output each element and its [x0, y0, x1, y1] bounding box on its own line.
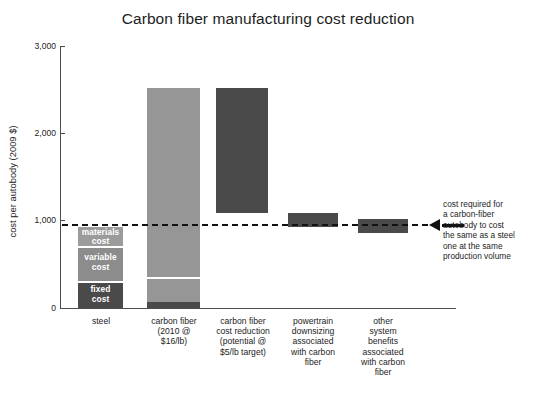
cat-other-line1: other [348, 316, 418, 326]
y-axis-tick-3000 [60, 46, 65, 47]
y-axis-tick-0 [60, 308, 65, 309]
annotation-line-1: cost required for [443, 199, 533, 209]
x-axis-label-carbon-fiber-2010: carbon fiber (2010 @ $16/lb) [138, 316, 210, 347]
cat-other-line2: system [348, 326, 418, 336]
cat-cf2010-line3: $16/lb) [138, 336, 210, 346]
cat-other-line6: fiber [348, 367, 418, 377]
y-axis-label-3000: 3,000 [0, 41, 56, 51]
cat-costred-line2: cost reduction [205, 326, 281, 336]
annotation-line-4: the same as a steel [443, 230, 533, 240]
y-axis-label-0: 0 [0, 303, 56, 313]
segment-label-fixed: fixedcost [90, 284, 110, 304]
reference-line-target-cost [62, 224, 428, 226]
annotation-arrow-head-icon [429, 219, 440, 231]
bar-cf2010-segment-base [147, 302, 200, 308]
cat-powertrain-line2: downsizing [278, 326, 348, 336]
x-axis-label-other-system-benefits: other system benefits associated with ca… [348, 316, 418, 377]
cat-other-line4: associated [348, 347, 418, 357]
bar-carbon-fiber-2010 [147, 88, 200, 308]
bar-steel-label-materials: materialscost [78, 228, 123, 247]
cat-other-line5: with carbon [348, 357, 418, 367]
bar-steel-label-fixed: fixedcost [78, 285, 123, 304]
chart-title: Carbon fiber manufacturing cost reductio… [0, 10, 536, 28]
bar-cf2010-segment-mid [147, 279, 200, 302]
bar-other-system-benefits [358, 219, 408, 233]
cat-costred-line1: carbon fiber [205, 316, 281, 326]
bar-cf2010-segment-upper [147, 88, 200, 277]
annotation-line-6: production volume [443, 251, 533, 261]
x-axis-label-powertrain-downsizing: powertrain downsizing associated with ca… [278, 316, 348, 367]
cat-other-line3: benefits [348, 336, 418, 346]
bar-carbon-fiber-cost-reduction [216, 88, 268, 213]
bar-steel-label-variable: variablecost [78, 253, 123, 272]
x-axis-label-steel: steel [70, 316, 132, 326]
annotation-line-3: autobody to cost [443, 220, 533, 230]
y-axis-tick-2000 [60, 133, 65, 134]
y-axis-tick-1000 [60, 220, 65, 221]
cat-powertrain-line1: powertrain [278, 316, 348, 326]
y-axis-line [60, 46, 61, 308]
cat-powertrain-line5: fiber [278, 357, 348, 367]
cat-powertrain-line4: with carbon [278, 347, 348, 357]
x-axis-label-cost-reduction: carbon fiber cost reduction (potential @… [205, 316, 281, 357]
segment-label-variable: variablecost [84, 252, 116, 272]
y-axis-title: cost per autobody (2009 $) [7, 97, 18, 267]
cat-costred-line4: $5/lb target) [205, 347, 281, 357]
cat-cf2010-line2: (2010 @ [138, 326, 210, 336]
annotation-line-5: one at the same [443, 241, 533, 251]
cat-cf2010-line1: carbon fiber [138, 316, 210, 326]
annotation-line-2: a carbon-fiber [443, 209, 533, 219]
cat-powertrain-line3: associated [278, 336, 348, 346]
cat-steel-line1: steel [70, 316, 132, 326]
cat-costred-line3: (potential @ [205, 336, 281, 346]
chart-container: Carbon fiber manufacturing cost reductio… [0, 0, 536, 393]
x-axis-line [60, 308, 456, 309]
segment-label-materials-line1: materialscost [82, 227, 120, 247]
bar-steel: materialscost variablecost fixedcost [78, 227, 123, 308]
reference-line-annotation: cost required for a carbon-fiber autobod… [443, 199, 533, 261]
